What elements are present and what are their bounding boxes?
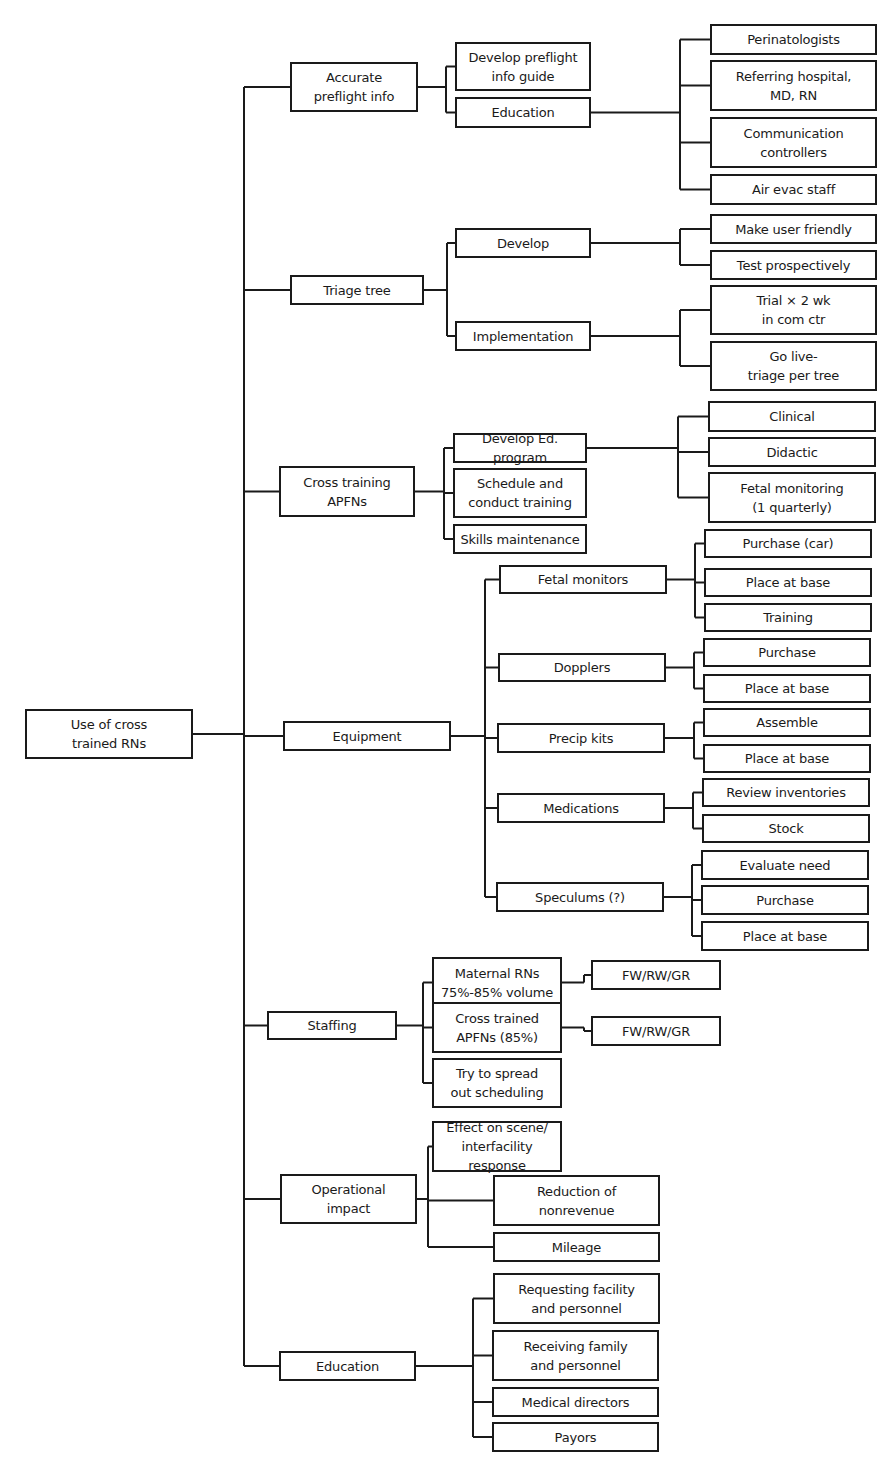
- tree-node: Assemble: [703, 708, 871, 737]
- tree-node: FW/RW/GR: [591, 1016, 721, 1046]
- tree-node: Education: [279, 1351, 416, 1381]
- tree-node: Make user friendly: [710, 214, 877, 244]
- tree-node: Requesting facility and personnel: [493, 1273, 660, 1324]
- tree-node: Payors: [492, 1422, 659, 1452]
- tree-node: Training: [704, 603, 872, 632]
- tree-node: Referring hospital, MD, RN: [710, 60, 877, 111]
- tree-node: Develop: [455, 228, 591, 258]
- tree-node: Develop Ed. program: [453, 433, 587, 463]
- tree-node: Didactic: [708, 437, 876, 467]
- tree-node: Cross trained APFNs (85%): [432, 1002, 562, 1053]
- tree-node: Speculums (?): [496, 882, 664, 912]
- tree-node: Evaluate need: [701, 850, 869, 880]
- tree-node: Implementation: [455, 321, 591, 351]
- tree-node: Medical directors: [492, 1387, 659, 1417]
- tree-node: Develop preflight info guide: [455, 42, 591, 91]
- tree-node: Triage tree: [290, 275, 424, 305]
- tree-node: Mileage: [493, 1232, 660, 1262]
- tree-node: Clinical: [708, 401, 876, 432]
- tree-node: Place at base: [703, 674, 871, 703]
- tree-node: Reduction of nonrevenue: [493, 1175, 660, 1226]
- tree-node: Fetal monitors: [499, 565, 667, 594]
- tree-node: Skills maintenance: [453, 524, 587, 554]
- tree-diagram: Use of cross trained RNsAccurate preflig…: [0, 0, 896, 1476]
- root-node: Use of cross trained RNs: [25, 709, 193, 759]
- tree-node: Precip kits: [497, 723, 665, 753]
- tree-node: Purchase: [701, 885, 869, 915]
- tree-node: Stock: [702, 814, 870, 843]
- tree-node: Medications: [497, 793, 665, 823]
- tree-node: Fetal monitoring (1 quarterly): [708, 472, 876, 523]
- tree-node: FW/RW/GR: [591, 960, 721, 990]
- tree-node: Operational impact: [280, 1174, 417, 1224]
- tree-node: Dopplers: [498, 653, 666, 682]
- tree-node: Schedule and conduct training: [453, 468, 587, 518]
- tree-node: Place at base: [701, 921, 869, 951]
- tree-node: Equipment: [283, 721, 451, 751]
- tree-node: Purchase (car): [704, 529, 872, 558]
- tree-node: Maternal RNs 75%-85% volume: [432, 957, 562, 1008]
- tree-node: Try to spread out scheduling: [432, 1058, 562, 1108]
- tree-node: Cross training APFNs: [279, 466, 415, 517]
- tree-node: Purchase: [703, 638, 871, 667]
- tree-node: Education: [455, 97, 591, 128]
- tree-node: Receiving family and personnel: [492, 1330, 659, 1381]
- tree-node: Review inventories: [702, 778, 870, 807]
- tree-node: Staffing: [267, 1011, 397, 1040]
- tree-node: Trial × 2 wk in com ctr: [710, 285, 877, 335]
- tree-node: Accurate preflight info: [290, 62, 418, 112]
- tree-node: Place at base: [704, 568, 872, 597]
- tree-node: Perinatologists: [710, 24, 877, 55]
- tree-node: Go live- triage per tree: [710, 341, 877, 391]
- tree-node: Effect on scene/ interfacility response: [432, 1121, 562, 1172]
- tree-node: Communication controllers: [710, 117, 877, 168]
- tree-node: Place at base: [703, 744, 871, 773]
- tree-node: Air evac staff: [710, 174, 877, 205]
- tree-node: Test prospectively: [710, 250, 877, 280]
